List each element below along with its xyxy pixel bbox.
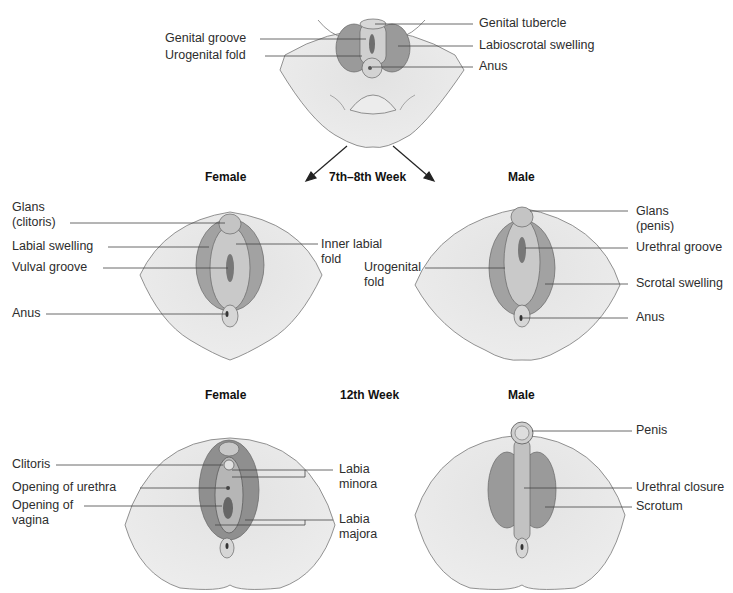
heading-week-12: 12th Week [340, 388, 399, 402]
indifferent-stage-illustration [280, 19, 464, 148]
label-genital-tubercle: Genital tubercle [479, 16, 567, 31]
label-clitoris: Clitoris [12, 457, 50, 472]
label-anus-indifferent: Anus [479, 59, 508, 74]
label-labia-majora: Labia majora [339, 512, 377, 542]
label-urethral-closure: Urethral closure [636, 480, 724, 495]
label-opening-of-urethra: Opening of urethra [12, 480, 116, 495]
label-scrotal-swelling: Scrotal swelling [636, 276, 723, 291]
heading-female-7-8: Female [205, 170, 246, 184]
label-glans-penis: Glans (penis) [636, 204, 674, 234]
diagram-artwork [0, 0, 733, 593]
heading-female-12: Female [205, 388, 246, 402]
label-labia-minora: Labia minora [339, 462, 377, 492]
label-urogenital-fold-male: Urogenital fold [364, 260, 421, 290]
label-labial-swelling: Labial swelling [12, 239, 93, 254]
label-urogenital-fold: Urogenital fold [165, 48, 246, 63]
label-vulval-groove: Vulval groove [12, 260, 87, 275]
label-anus-female-7-8: Anus [12, 306, 41, 321]
heading-week-7-8: 7th–8th Week [329, 170, 406, 184]
heading-male-12: Male [508, 388, 535, 402]
male-12-illustration [415, 422, 625, 589]
label-anus-male-7-8: Anus [636, 310, 665, 325]
female-12-illustration [125, 438, 335, 589]
label-penis: Penis [636, 423, 667, 438]
label-scrotum: Scrotum [636, 499, 683, 514]
label-genital-groove: Genital groove [165, 31, 246, 46]
label-glans-clitoris: Glans (clitoris) [12, 200, 56, 230]
female-7-8-illustration [140, 212, 322, 360]
label-opening-of-vagina: Opening of vagina [12, 498, 73, 528]
label-labioscrotal-swelling: Labioscrotal swelling [479, 38, 594, 53]
heading-male-7-8: Male [508, 170, 535, 184]
label-urethral-groove: Urethral groove [636, 240, 722, 255]
